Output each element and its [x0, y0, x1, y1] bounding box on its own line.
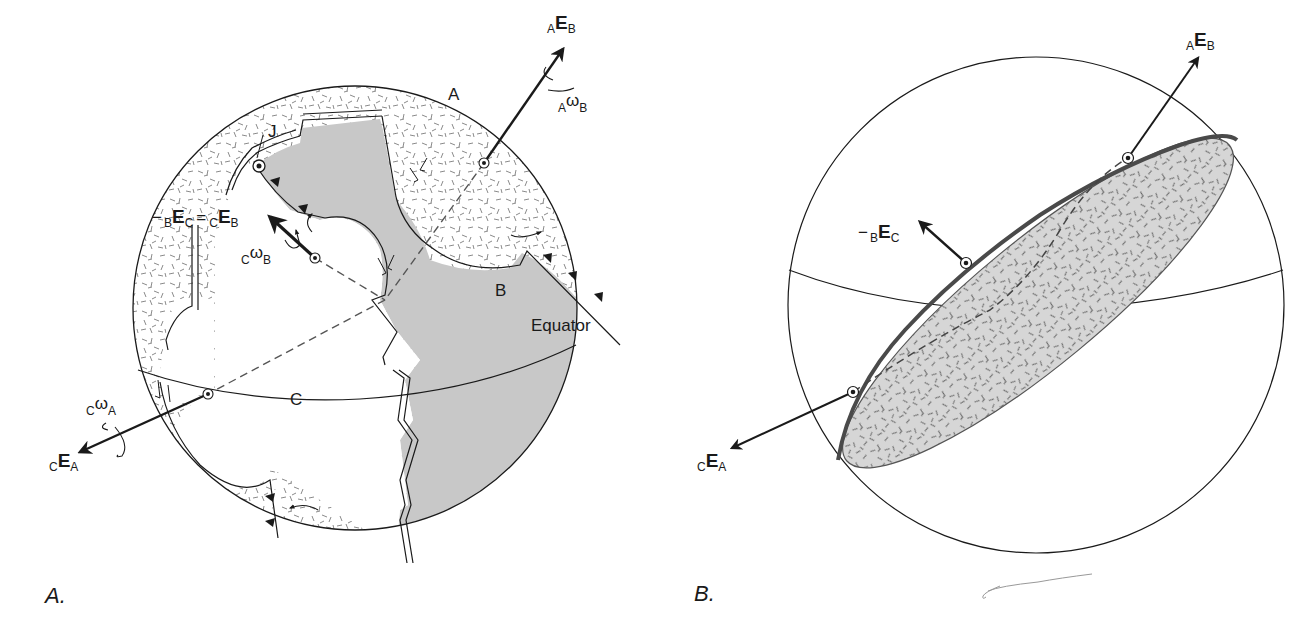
panel-b-globe	[732, 57, 1284, 598]
panel-label-b: B.	[694, 581, 715, 606]
label-vector-aeb: AEB	[547, 12, 576, 36]
vector-aeb-arrow	[484, 49, 563, 163]
label-vector-cea-b: CEA	[697, 450, 726, 474]
label-vector-bec-b: −BEC	[858, 221, 900, 245]
label-junction-j: J	[268, 122, 277, 141]
vector-bec-arrow-b	[920, 222, 966, 263]
panel-label-a: A.	[43, 583, 66, 608]
label-vector-aeb-b: AEB	[1186, 29, 1215, 53]
great-circle-plane	[807, 97, 1269, 508]
label-plate-c: C	[290, 390, 302, 409]
label-vector-awb: AωB	[558, 91, 587, 115]
stray-pencil-mark	[983, 574, 1092, 598]
label-vector-cea: CEA	[49, 450, 78, 474]
label-vector-cwa: CωA	[86, 394, 116, 418]
label-plate-a: A	[448, 85, 460, 104]
figure-canvas: A B C J Equator AEB AωB −BEC=CEB CωB CωA…	[0, 0, 1312, 635]
panel-a-globe	[80, 49, 620, 563]
label-equator: Equator	[531, 316, 591, 335]
label-plate-b: B	[495, 281, 506, 300]
vector-cea-arrow-b	[732, 392, 853, 448]
